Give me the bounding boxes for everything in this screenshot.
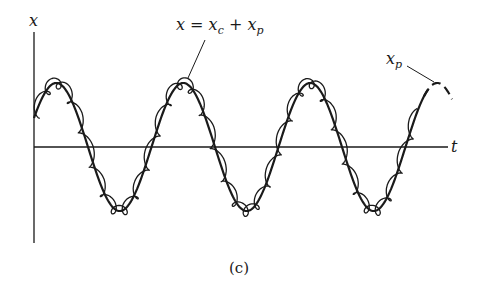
particular-leader-line <box>407 66 434 82</box>
particular-solution-label: xp <box>386 49 402 71</box>
figure-caption: (c) <box>229 259 249 277</box>
particular-solution-dashed <box>424 83 452 99</box>
response-diagram: x t x = xc + xp xp (c) <box>0 0 484 289</box>
y-axis-label: x <box>29 11 38 30</box>
total-response-label: x = xc + xp <box>176 15 263 37</box>
t-axis-label: t <box>451 137 458 156</box>
total-leader-line <box>188 40 205 78</box>
